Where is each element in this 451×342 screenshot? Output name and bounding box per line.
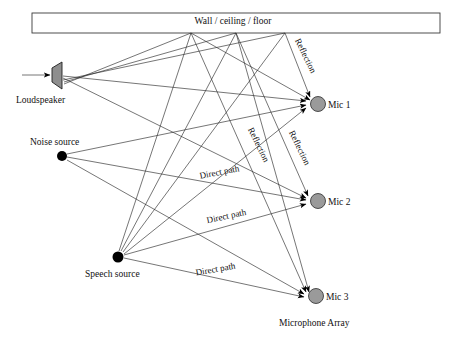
ray-refl1-down-mic3 bbox=[191, 33, 306, 292]
mic-2-label: Mic 2 bbox=[328, 197, 351, 207]
ray-loudspeaker-direct-mic2 bbox=[63, 78, 306, 198]
acoustic-paths-diagram: Wall / ceiling / floor Noise source Spee… bbox=[0, 0, 451, 342]
speech-source-label: Speech source bbox=[85, 269, 140, 279]
ray-loudspeaker-up-refl1 bbox=[64, 33, 191, 84]
loudspeaker-label: Loudspeaker bbox=[16, 95, 66, 105]
microphone-array-label: Microphone Array bbox=[279, 318, 350, 328]
loudspeaker-icon bbox=[52, 62, 62, 89]
noise-source-node bbox=[57, 151, 67, 161]
reflection-label-1: Reflection bbox=[293, 37, 319, 76]
ray-loudspeaker-direct-mic1 bbox=[63, 76, 306, 101]
noise-source-label: Noise source bbox=[30, 137, 79, 147]
reflection-label-3: Reflection bbox=[287, 129, 313, 168]
ray-speech-direct-mic1 bbox=[124, 108, 306, 254]
ray-refl1-down-mic1 bbox=[191, 33, 310, 100]
wall-label: Wall / ceiling / floor bbox=[195, 16, 273, 26]
ray-refl2-down-mic2 bbox=[236, 33, 308, 196]
mic-2-capsule bbox=[311, 194, 326, 209]
ray-speech-direct-mic2 bbox=[124, 204, 306, 255]
ray-refl2-down-mic3 bbox=[236, 33, 309, 292]
direct-path-label-1: Direct path bbox=[199, 163, 241, 181]
mic-1-label: Mic 1 bbox=[328, 100, 351, 110]
ray-noise-direct-mic2 bbox=[67, 157, 306, 200]
direct-path-label-3: Direct path bbox=[195, 261, 237, 278]
mic-3-capsule bbox=[309, 289, 324, 304]
speech-source-node bbox=[113, 252, 124, 263]
ray-noise-direct-mic1 bbox=[67, 105, 306, 154]
ray-loudspeaker-up-refl2 bbox=[64, 33, 236, 82]
mic-3-label: Mic 3 bbox=[326, 292, 349, 302]
mic-1-capsule bbox=[311, 97, 326, 112]
diagram-canvas: Wall / ceiling / floor Noise source Spee… bbox=[0, 0, 451, 342]
